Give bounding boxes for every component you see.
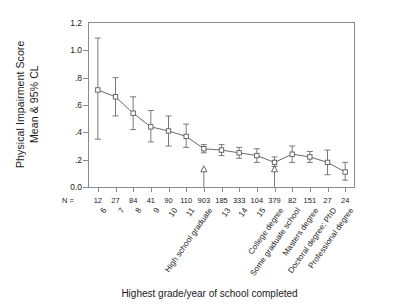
- sample-size-value: 185: [215, 196, 228, 205]
- data-point-marker: [255, 153, 259, 157]
- x-tick-mark: [292, 188, 293, 192]
- sample-size-value: 379: [268, 196, 281, 205]
- sample-size-value: 27: [323, 196, 331, 205]
- data-point-marker: [202, 147, 206, 151]
- sample-size-value: 104: [251, 196, 264, 205]
- data-point-marker: [184, 134, 188, 138]
- x-category-label: 15: [255, 206, 268, 219]
- y-axis-title-line-2: Mean & 95% CL: [26, 16, 42, 192]
- data-point-marker: [166, 129, 170, 133]
- data-point-marker: [272, 160, 276, 164]
- chart-figure: Physical Impairment Score Mean & 95% CL …: [0, 0, 419, 308]
- sample-size-value: 151: [304, 196, 317, 205]
- data-point-marker: [96, 88, 100, 92]
- x-tick-mark: [169, 188, 170, 192]
- x-axis-tick-marks: [88, 188, 355, 194]
- sample-size-value: 903: [198, 196, 211, 205]
- data-point-marker: [219, 148, 223, 152]
- data-point-marker: [325, 160, 329, 164]
- x-category-label: 10: [166, 206, 179, 219]
- x-tick-mark: [133, 188, 134, 192]
- sample-size-value: 84: [129, 196, 137, 205]
- sample-size-value: 12: [94, 196, 102, 205]
- sample-size-value: 82: [288, 196, 296, 205]
- data-point-marker: [131, 111, 135, 115]
- y-tick-label: .8: [56, 74, 82, 82]
- x-tick-mark: [98, 188, 99, 192]
- x-tick-mark: [275, 188, 276, 192]
- x-tick-mark: [345, 188, 346, 192]
- x-tick-mark: [151, 188, 152, 192]
- data-point-marker: [113, 95, 117, 99]
- y-tick-label: 0.0: [56, 183, 82, 191]
- data-point-marker: [308, 155, 312, 159]
- x-category-label: 13: [219, 206, 232, 219]
- x-category-label: 9: [151, 206, 161, 215]
- sample-size-label: N =: [62, 196, 74, 205]
- x-category-label: 14: [237, 206, 250, 219]
- x-tick-mark: [186, 188, 187, 192]
- sample-size-value: 24: [341, 196, 349, 205]
- annotation-triangle-10: [272, 166, 278, 187]
- x-category-label: 8: [134, 206, 144, 215]
- sample-size-value: 110: [180, 196, 192, 205]
- y-tick-label: 1.0: [56, 46, 82, 54]
- sample-size-value: 90: [164, 196, 172, 205]
- x-tick-mark: [204, 188, 205, 192]
- data-point-marker: [149, 125, 153, 129]
- data-series-svg: [89, 23, 354, 187]
- data-point-marker: [237, 151, 241, 155]
- y-tick-label: .6: [56, 101, 82, 109]
- y-tick-label: .2: [56, 156, 82, 164]
- x-category-label: 7: [116, 206, 126, 215]
- x-axis-title: Highest grade/year of school completed: [0, 288, 419, 299]
- sample-size-value: 333: [233, 196, 246, 205]
- x-tick-mark: [239, 188, 240, 192]
- annotation-triangle-6: [201, 166, 207, 187]
- data-point-marker: [343, 170, 347, 174]
- x-tick-mark: [310, 188, 311, 192]
- series-line: [98, 90, 345, 172]
- sample-size-value: 27: [111, 196, 119, 205]
- x-category-label: 11: [184, 206, 196, 218]
- y-axis-tick-marks: [80, 22, 88, 188]
- plot-area: [88, 22, 355, 188]
- y-tick-label: .4: [56, 128, 82, 136]
- data-point-marker: [290, 152, 294, 156]
- x-category-label: 6: [98, 206, 108, 215]
- x-tick-mark: [116, 188, 117, 192]
- y-tick-label: 1.2: [56, 19, 82, 27]
- y-axis-title: Physical Impairment Score Mean & 95% CL: [2, 16, 42, 192]
- x-tick-mark: [222, 188, 223, 192]
- sample-size-value: 41: [147, 196, 155, 205]
- x-tick-mark: [257, 188, 258, 192]
- x-tick-mark: [328, 188, 329, 192]
